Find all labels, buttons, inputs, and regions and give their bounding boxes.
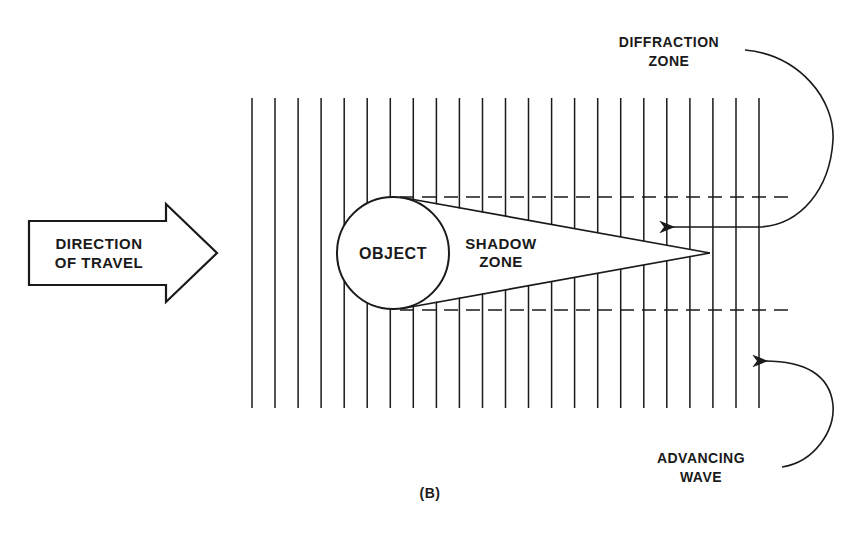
shadow-zone-label-line1: SHADOW [465,235,537,252]
direction-label-line1: DIRECTION [56,235,143,252]
advancing-label-line2: WAVE [680,469,722,485]
figure-caption: (B) [420,485,441,501]
diffraction-callout-arrow [672,50,833,227]
direction-arrow [29,204,217,302]
shadow-zone-label-line2: ZONE [479,253,523,270]
diffraction-label-line2: ZONE [649,53,690,69]
wave-diffraction-diagram: OBJECT SHADOW ZONE DIRECTION OF TRAVEL D… [0,0,866,537]
advancing-label-line1: ADVANCING [657,450,745,466]
object-label: OBJECT [359,245,427,262]
direction-label-line2: OF TRAVEL [55,254,143,271]
advancing-callout-arrow [765,361,833,467]
diffraction-label-line1: DIFFRACTION [619,34,719,50]
